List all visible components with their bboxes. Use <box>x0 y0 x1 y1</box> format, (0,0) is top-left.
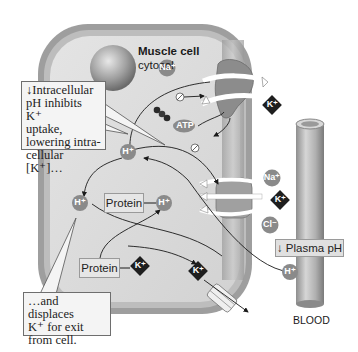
k-exit-label: K⁺ <box>190 265 207 275</box>
k-protein-label: K⁺ <box>132 260 149 270</box>
blood-vessel <box>296 119 324 308</box>
cell-title: Muscle cell <box>138 45 199 57</box>
protein-h-box: Protein <box>104 193 144 213</box>
h-blood-label: H⁺ <box>282 266 298 276</box>
blood-label: BLOOD <box>293 314 330 326</box>
cl-cotransport-label: Cl⁻ <box>261 219 279 229</box>
h-upper-label: H⁺ <box>120 146 136 156</box>
plasma-ph-label: ↓ Plasma pH <box>275 239 344 257</box>
h-protein-label: H⁺ <box>156 197 172 207</box>
h-left-label: H⁺ <box>72 197 88 207</box>
callout-top-line-2: pH inhibits K⁺ <box>26 97 101 123</box>
callout-top-line-5: cellular [K⁺]… <box>26 149 101 175</box>
na-cotransport-label: Na⁺ <box>263 172 281 182</box>
vessel-bottom <box>296 300 324 308</box>
na-top-label: Na⁺ <box>159 62 176 72</box>
callout-bottom-line-1: …and displaces <box>28 295 106 321</box>
callout-displaces-k: …and displaces K⁺ for exit from cell. <box>23 292 111 336</box>
diagram-canvas: Muscle cell cytosol Na⁺ K⁺ ATP H⁺ H⁺ H⁺ … <box>0 0 358 352</box>
k-top-label: K⁺ <box>264 99 281 109</box>
vessel-lumen <box>301 121 319 127</box>
atp-label: ATP <box>173 120 197 130</box>
vessel-body <box>296 124 324 304</box>
callout-intracellular-ph: ↓Intracellular pH inhibits K⁺ uptake, lo… <box>21 81 106 150</box>
protein-k-box: Protein <box>79 258 120 278</box>
callout-bottom-line-3: from cell. <box>28 334 106 347</box>
k-cotransport-label: K⁺ <box>272 194 289 204</box>
